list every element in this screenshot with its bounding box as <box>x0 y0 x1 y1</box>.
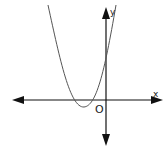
y-axis-up-arrow-icon <box>102 7 110 19</box>
x-axis-left-arrow-icon <box>12 96 24 104</box>
y-axis <box>102 7 110 146</box>
y-axis-down-arrow-icon <box>102 134 110 146</box>
x-axis-label: x <box>153 90 158 99</box>
origin-label: O <box>95 104 104 115</box>
y-axis-label: y <box>110 8 115 17</box>
x-axis <box>12 96 163 104</box>
parabola-diagram: x y O <box>0 0 167 152</box>
coordinate-plane <box>0 0 167 152</box>
